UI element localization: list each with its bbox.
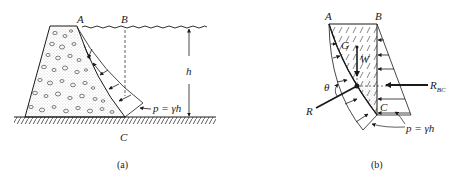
label-A-b: A <box>324 10 332 22</box>
label-RBC: RBC <box>429 79 446 94</box>
caption-b: (b) <box>371 159 383 171</box>
ground-hatching <box>14 117 216 124</box>
label-R: R <box>305 105 313 117</box>
label-B: B <box>121 13 128 25</box>
caption-a: (a) <box>117 159 128 171</box>
pressure-leader-a <box>140 108 151 109</box>
label-theta: θ <box>324 81 330 93</box>
label-RBC-sub: BC <box>437 86 446 94</box>
concrete-dam <box>25 26 125 117</box>
label-pressure-a: p = γh <box>152 102 182 114</box>
water-surface <box>82 26 207 28</box>
label-pressure-b: p = γh <box>405 122 435 134</box>
dam-diagram: A B h p = γh C (a) <box>0 0 459 180</box>
resultant-R <box>316 84 360 109</box>
label-h: h <box>186 65 192 77</box>
panel-b: A B G W θ R RBC C p = γh (b) <box>305 10 446 171</box>
label-C: C <box>120 131 128 143</box>
panel-a: A B h p = γh C (a) <box>14 13 216 171</box>
label-C-b: C <box>380 101 388 113</box>
label-A: A <box>76 13 84 25</box>
label-B-b: B <box>375 10 382 22</box>
label-W: W <box>360 53 370 65</box>
label-G: G <box>341 39 349 51</box>
